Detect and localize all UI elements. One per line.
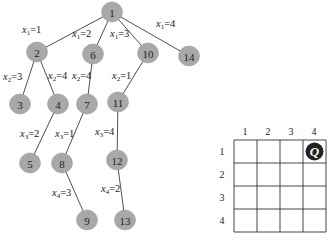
node-label: 3 [17,99,23,111]
edge-label: x1=3 [109,28,129,41]
board-row-label: 2 [220,169,225,180]
node-label: 10 [143,48,155,60]
node-label: 12 [112,155,123,167]
edge-label: x1=1 [21,24,41,37]
tree-node: 13 [115,210,136,230]
tree-node: 6 [83,44,104,64]
tree-node: 14 [179,46,200,66]
edge-label: x2=4 [47,70,68,83]
board-row-label: 3 [220,192,225,203]
edge-label: x2=1 [111,70,131,83]
board-row-label: 4 [220,215,225,226]
edge-label: x2=3 [2,71,22,84]
node-label: 9 [84,215,90,227]
board-col-label: 1 [243,126,248,137]
node-label: 5 [27,158,33,170]
node-label: 8 [59,158,65,170]
tree-node: 9 [77,210,98,230]
tree-node: 1 [102,2,123,22]
tree-node: 11 [108,92,129,112]
svg-text:Q: Q [310,144,320,159]
tree-node: 8 [52,153,73,173]
node-label: 11 [113,97,124,109]
board-col-label: 3 [289,126,294,137]
edge-label: x3=1 [54,128,74,141]
node-label: 13 [120,215,132,227]
edge-label: x4=3 [51,187,71,200]
node-label: 1 [109,7,115,19]
tree-node: 2 [27,42,48,62]
board-row-label: 1 [220,146,225,157]
tree-node: 10 [138,43,159,63]
node-label: 14 [184,51,196,63]
edge-label: x2=4 [71,70,92,83]
tree-node: 3 [10,94,31,114]
edge-label: x3=2 [19,128,39,141]
edge-label: x1=2 [71,28,91,41]
queen-icon: Q [306,143,324,161]
tree-node: 4 [48,94,69,114]
chessboard: 12341234Q [220,126,327,233]
node-label: 7 [84,99,90,111]
tree-nodes: 1261014347115812913 [10,2,200,230]
four-queens-diagram: x1=1x1=2x1=3x1=4x2=3x2=4x2=4x2=1x3=2x3=1… [0,0,334,242]
node-label: 6 [90,49,96,61]
board-col-label: 2 [266,126,271,137]
tree-node: 12 [107,150,128,170]
tree-node: 5 [20,153,41,173]
edge-label: x3=4 [94,126,115,139]
edge-label: x4=2 [100,183,120,196]
board-col-label: 4 [312,126,317,137]
edge-label: x1=4 [155,18,176,31]
node-label: 4 [55,99,61,111]
tree-node: 7 [77,94,98,114]
node-label: 2 [34,47,40,59]
